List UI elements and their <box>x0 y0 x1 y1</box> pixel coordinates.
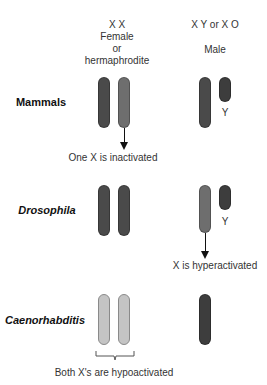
caenorhabditis-female-x1-chromosome <box>98 294 110 345</box>
organism-label-caenorhabditis: Caenorhabditis <box>5 314 85 326</box>
drosophila-female-x2-chromosome <box>118 185 130 236</box>
bracket-icon <box>95 350 135 362</box>
mammals-annotation: One X is inactivated <box>69 152 158 164</box>
organism-label-mammals: Mammals <box>16 96 66 108</box>
male-genotype: X Y or X O <box>191 19 238 31</box>
drosophila-female-x1-chromosome <box>98 185 110 236</box>
caenorhabditis-female-x2-chromosome <box>118 294 130 345</box>
drosophila-male-y-chromosome <box>219 185 231 210</box>
drosophila-y-label: Y <box>222 216 229 228</box>
hermaphrodite-label: hermaphrodite <box>85 55 149 67</box>
caenorhabditis-annotation: Both X's are hypoactivated <box>55 367 174 379</box>
drosophila-arrow-icon <box>205 233 206 253</box>
female-label: Female <box>100 31 133 43</box>
drosophila-arrowhead-icon <box>201 251 209 259</box>
drosophila-annotation: X is hyperactivated <box>173 260 258 272</box>
organism-label-drosophila: Drosophila <box>18 204 75 216</box>
mammals-female-x1-chromosome <box>98 77 110 128</box>
male-label: Male <box>204 44 226 56</box>
mammals-male-y-chromosome <box>219 77 231 102</box>
female-genotype: X X <box>109 19 125 31</box>
mammals-male-x-chromosome <box>199 77 211 128</box>
drosophila-male-x-chromosome <box>199 185 211 233</box>
mammals-y-label: Y <box>222 107 229 119</box>
mammals-female-x2-chromosome <box>118 77 130 128</box>
female-or-label: or <box>113 43 122 55</box>
caenorhabditis-male-x-chromosome <box>199 294 211 345</box>
mammals-arrowhead-icon <box>120 142 128 150</box>
